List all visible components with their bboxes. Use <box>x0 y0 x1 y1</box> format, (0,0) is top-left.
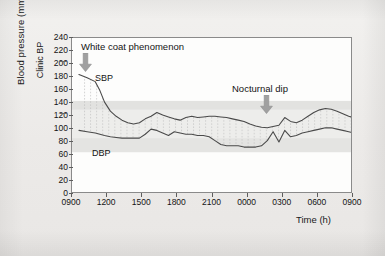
y-axis-ticks: 240220200180160140120100806040200 <box>28 0 68 256</box>
x-tick-mark-8 <box>352 193 353 197</box>
annotation-nocturnal-dip: Nocturnal dip <box>232 83 288 94</box>
nocturnal-dip-arrow-icon <box>260 95 273 114</box>
x-tick-mark-3 <box>176 193 177 197</box>
y-tick-mark-120 <box>69 115 73 116</box>
y-tick-mark-80 <box>69 141 73 142</box>
y-axis-title: Blood pressure (mmHg) <box>15 0 26 124</box>
plot-area <box>71 37 352 193</box>
white-coat-arrow-icon <box>79 53 92 72</box>
x-tick-mark-6 <box>282 193 283 197</box>
x-tick-mark-5 <box>247 193 248 197</box>
y-tick-mark-200 <box>69 63 73 64</box>
y-tick-40: 40 <box>59 163 68 172</box>
clinic-bp-mark-lower <box>60 113 67 114</box>
y-tick-240: 240 <box>54 33 68 42</box>
x-axis-title: Time (h) <box>296 214 331 225</box>
series-label-sbp: SBP <box>95 73 113 83</box>
chart-svg <box>72 38 351 192</box>
bp-chart-figure: Blood pressure (mmHg) Clinic BP 24022020… <box>0 0 385 256</box>
x-tick-mark-7 <box>317 193 318 197</box>
y-tick-200: 200 <box>54 59 68 68</box>
x-tick-7-0600: 0600 <box>307 197 326 207</box>
y-tick-mark-40 <box>69 167 73 168</box>
y-tick-mark-180 <box>69 76 73 77</box>
y-tick-120: 120 <box>54 111 68 120</box>
x-tick-6-0300: 0300 <box>272 197 291 207</box>
x-tick-5-0000: 0000 <box>237 197 256 207</box>
y-tick-20: 20 <box>59 176 68 185</box>
y-tick-mark-100 <box>69 128 73 129</box>
y-tick-mark-160 <box>69 89 73 90</box>
x-tick-mark-2 <box>141 193 142 197</box>
x-tick-3-1800: 1800 <box>167 197 186 207</box>
x-tick-mark-1 <box>106 193 107 197</box>
lower-reference-band <box>72 138 351 152</box>
y-tick-mark-20 <box>69 180 73 181</box>
y-tick-0: 0 <box>63 189 68 198</box>
x-tick-mark-0 <box>71 193 72 197</box>
y-tick-100: 100 <box>54 124 68 133</box>
y-tick-60: 60 <box>59 150 68 159</box>
x-tick-4-2100: 2100 <box>202 197 221 207</box>
y-tick-180: 180 <box>54 72 68 81</box>
clinic-bp-mark-upper <box>60 61 67 62</box>
y-tick-mark-240 <box>69 37 73 38</box>
y-tick-80: 80 <box>59 137 68 146</box>
y-tick-140: 140 <box>54 98 68 107</box>
x-tick-0-0900: 0900 <box>62 197 81 207</box>
upper-reference-band <box>72 101 351 110</box>
y-tick-220: 220 <box>54 46 68 55</box>
x-tick-mark-4 <box>212 193 213 197</box>
y-tick-mark-140 <box>69 102 73 103</box>
x-tick-1-1200: 1200 <box>97 197 116 207</box>
y-tick-mark-60 <box>69 154 73 155</box>
y-tick-160: 160 <box>54 85 68 94</box>
x-tick-8-0900: 0900 <box>343 197 362 207</box>
annotation-white-coat-phenomenon: White coat phenomenon <box>81 41 184 52</box>
y-tick-mark-220 <box>69 50 73 51</box>
series-label-dbp: DBP <box>92 148 111 158</box>
x-tick-2-1500: 1500 <box>132 197 151 207</box>
